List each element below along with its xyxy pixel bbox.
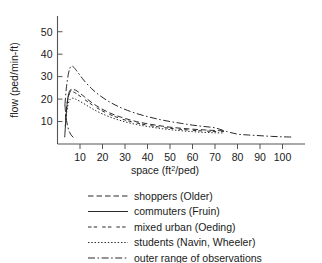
- figure-container: 1020304050 102030405060708090100 flow (p…: [0, 0, 322, 263]
- x-tick-label: 80: [232, 151, 244, 163]
- x-tick-label: 90: [254, 151, 266, 163]
- x-tick-label: 60: [187, 151, 199, 163]
- y-axis-title: flow (ped/min-ft): [8, 42, 20, 117]
- y-tick-label: 50: [41, 26, 53, 38]
- y-tick-label: 10: [41, 115, 53, 127]
- x-tick-label: 100: [274, 151, 292, 163]
- legend-label-3: students (Navin, Wheeler): [134, 236, 255, 248]
- x-tick-label: 20: [97, 151, 109, 163]
- x-axis-title: space (ft2/ped): [131, 164, 199, 177]
- y-tick-label: 20: [41, 93, 53, 105]
- legend-label-2: mixed urban (Oeding): [134, 221, 236, 233]
- x-tick-label: 10: [74, 151, 86, 163]
- flow-vs-space-chart: 1020304050 102030405060708090100 flow (p…: [0, 0, 322, 263]
- legend-label-4: outer range of observations: [134, 252, 262, 263]
- y-tick-label: 40: [41, 48, 53, 60]
- legend-label-0: shoppers (Older): [134, 190, 213, 202]
- y-tick-label: 30: [41, 70, 53, 82]
- x-tick-label: 70: [209, 151, 221, 163]
- x-tick-label: 50: [164, 151, 176, 163]
- x-tick-label: 40: [142, 151, 154, 163]
- legend-label-1: commuters (Fruin): [134, 205, 220, 217]
- x-tick-label: 30: [119, 151, 131, 163]
